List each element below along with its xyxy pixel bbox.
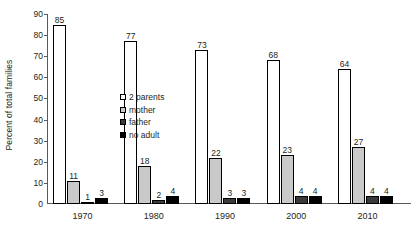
x-axis-tick-label: 1970 [73, 211, 93, 221]
y-axis-tick-label: 20 [34, 157, 43, 167]
chart-legend: 2 parentsmotherfatherno adult [120, 91, 164, 141]
bar-value-label: 18 [140, 156, 149, 166]
y-axis-tick-label: 60 [34, 72, 43, 82]
bar-value-label: 4 [299, 186, 304, 196]
bar-chart: Percent of total families 01020304050607… [0, 0, 416, 238]
bar-value-label: 68 [268, 50, 277, 60]
bar-value-label: 3 [242, 188, 247, 198]
bar-value-label: 22 [211, 148, 220, 158]
legend-item-label: no adult [129, 130, 159, 140]
bar[interactable]: 4 [366, 196, 379, 204]
bar-group: 6823442000 [261, 14, 332, 204]
bar-value-label: 64 [340, 59, 349, 69]
bar-group: 8511131970 [47, 14, 118, 204]
y-axis-tick-label: 40 [34, 115, 43, 125]
legend-item-label: 2 parents [129, 92, 164, 102]
x-axis-tick-label: 2000 [286, 211, 306, 221]
bar-value-label: 27 [354, 137, 363, 147]
x-axis-tick-label: 2010 [357, 211, 377, 221]
y-axis-tick-label: 30 [34, 136, 43, 146]
bar[interactable]: 1 [81, 202, 94, 204]
bar[interactable]: 64 [338, 69, 351, 204]
bar[interactable]: 11 [67, 181, 80, 204]
bar-value-label: 1 [85, 192, 90, 202]
bar[interactable]: 73 [195, 50, 208, 204]
bar-value-label: 4 [170, 186, 175, 196]
bar-value-label: 73 [197, 40, 206, 50]
bar[interactable]: 27 [352, 147, 365, 204]
bar[interactable]: 18 [138, 166, 151, 204]
x-axis-tick-label: 1990 [215, 211, 235, 221]
bar-value-label: 2 [156, 190, 161, 200]
legend-item[interactable]: mother [120, 104, 164, 117]
legend-item[interactable]: 2 parents [120, 91, 164, 104]
legend-swatch-icon [120, 107, 126, 113]
y-axis-title-label: Percent of total families [4, 60, 14, 151]
bar-value-label: 3 [99, 188, 104, 198]
bar-value-label: 23 [282, 145, 291, 155]
bar[interactable]: 4 [295, 196, 308, 204]
bar[interactable]: 3 [237, 198, 250, 204]
legend-swatch-icon [120, 132, 126, 138]
bar[interactable]: 68 [267, 60, 280, 204]
bar[interactable]: 3 [95, 198, 108, 204]
legend-item-label: mother [129, 105, 155, 115]
legend-swatch-icon [120, 119, 126, 125]
bar[interactable]: 2 [152, 200, 165, 204]
y-axis-tick-label: 10 [34, 178, 43, 188]
y-axis-tick-label: 0 [38, 199, 43, 209]
bar[interactable]: 4 [380, 196, 393, 204]
bar-value-label: 4 [370, 186, 375, 196]
y-axis-tick-label: 50 [34, 93, 43, 103]
bar-value-label: 4 [313, 186, 318, 196]
bar-group: 7322331990 [189, 14, 260, 204]
bar[interactable]: 23 [281, 155, 294, 204]
y-axis-title: Percent of total families [0, 0, 18, 210]
bar-group: 6427442010 [332, 14, 403, 204]
bar-value-label: 11 [69, 171, 78, 181]
y-axis-tick-label: 90 [34, 9, 43, 19]
x-axis-tick-label: 1980 [144, 211, 164, 221]
bar-value-label: 4 [384, 186, 389, 196]
y-axis-tick-label: 80 [34, 30, 43, 40]
y-axis-tick-label: 70 [34, 51, 43, 61]
legend-item-label: father [129, 117, 151, 127]
legend-item[interactable]: father [120, 116, 164, 129]
bar-value-label: 77 [126, 31, 135, 41]
bar[interactable]: 22 [209, 158, 222, 204]
bar-value-label: 3 [228, 188, 233, 198]
bar[interactable]: 85 [53, 25, 66, 204]
bar-value-label: 85 [55, 15, 64, 25]
bar[interactable]: 3 [223, 198, 236, 204]
plot-area: 0102030405060708090 85111319707718241980… [47, 14, 403, 204]
legend-item[interactable]: no adult [120, 129, 164, 142]
bar[interactable]: 4 [309, 196, 322, 204]
legend-swatch-icon [120, 94, 126, 100]
bar[interactable]: 4 [166, 196, 179, 204]
